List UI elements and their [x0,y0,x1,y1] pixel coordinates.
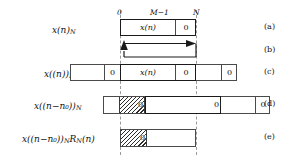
row-c-cell-blank-right [197,65,221,80]
row-c-cell-zero-right: 0 [221,65,237,80]
circular-shift-figure: 0 M−1 N x(n)N x(n) 0 (a) (b) x((n))N 0 0… [0,0,297,158]
row-e-zero: 0 [140,134,145,142]
row-marker-c: (c) [264,68,275,76]
row-marker-e: (e) [264,133,275,141]
row-d-zero-center: 0 [214,101,219,109]
row-c-cell-signal: x(n) [121,65,175,80]
row-marker-b: (b) [264,46,275,54]
row-a-label-main: x(n) [52,25,70,35]
row-a-cell-zero: 0 [175,20,196,35]
circular-shift-arrow-icon [116,38,208,64]
row-d-cell-blank-right [234,97,255,113]
row-e-label-window-arg: (n) [82,134,95,144]
row-d-cell-blank-left [104,97,120,113]
row-d-label: x((n−n₀))N [34,102,82,112]
tick-label-n: N [193,9,200,17]
row-e-label-main: x((n−n₀)) [22,134,64,144]
row-c-cell-zero-left: 0 [104,65,120,80]
row-d-principal-period-box [145,96,221,114]
row-d-label-subscript: N [76,104,82,112]
row-c-cell-zero-center: 0 [175,65,196,80]
tick-label-m-minus-1: M−1 [150,9,169,17]
tick-label-0: 0 [117,9,122,17]
row-d-label-main: x((n−n₀)) [34,101,76,111]
row-a-cell-signal: x(n) [121,20,175,35]
row-e-label: x((n−n₀))NRN(n) [22,135,95,145]
guide-line-period-end [196,10,197,155]
row-d-zero-left: 0 [138,101,143,109]
row-marker-a: (a) [264,23,275,31]
row-a-label-subscript: N [70,28,76,36]
row-c-cell-blank-left [71,65,104,80]
row-a-sequence-box: x(n) 0 [120,19,196,36]
row-e-cell-blank [147,130,195,146]
row-c-principal-period-box: x(n) 0 [120,64,196,81]
row-a-label: x(n)N [52,26,76,36]
row-marker-d: (d) [264,100,275,108]
row-c-label-main: x((n)) [44,69,69,79]
